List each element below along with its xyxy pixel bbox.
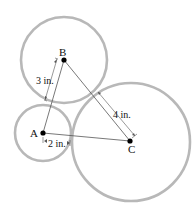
- diagram-svg: B A C 3 in. 4 in. 2 in.: [0, 0, 196, 210]
- point-a-dot: [40, 130, 45, 135]
- dimension-label-3in: 3 in.: [36, 75, 54, 86]
- label-a: A: [30, 127, 38, 139]
- circles-diagram: B A C 3 in. 4 in. 2 in.: [0, 0, 196, 210]
- point-b-dot: [61, 57, 66, 62]
- label-b: B: [59, 46, 66, 58]
- dimension-label-2in: 2 in.: [48, 138, 66, 149]
- dimension-label-4in: 4 in.: [113, 109, 131, 120]
- label-c: C: [128, 143, 135, 155]
